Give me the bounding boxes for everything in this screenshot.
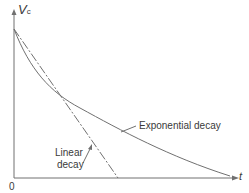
exponential-leader-line [121,126,136,132]
linear-leader-arrow-icon [88,144,92,150]
x-axis-arrow-icon [232,176,239,181]
exponential-decay-curve [14,29,230,176]
capacitor-decay-diagram: Vc t 0 Exponential decay Linear decay [0,0,249,193]
y-axis-arrow-icon [12,9,17,15]
diagram-canvas [0,0,249,193]
exponential-decay-label: Exponential decay [139,120,221,131]
y-axis-label: Vc [18,4,31,17]
origin-label: 0 [9,181,15,192]
linear-decay-label-line2: decay [57,159,84,170]
x-axis-label: t [239,171,242,182]
linear-decay-label-line1: Linear [55,147,83,158]
